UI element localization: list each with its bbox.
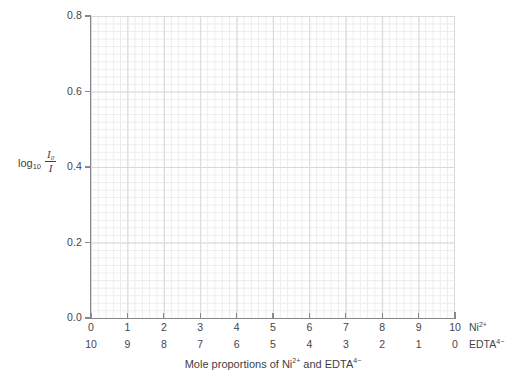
- x-tick-mark: [272, 313, 273, 319]
- x-tick-label-edta: 1: [399, 338, 439, 350]
- x-axis-title-joiner: and: [300, 358, 324, 370]
- x-tick-mark: [200, 313, 201, 319]
- y-axis-title-fraction: I0 I: [45, 149, 56, 174]
- row-label-ni-text: Ni: [469, 321, 479, 333]
- x-tick-label-edta: 4: [289, 338, 329, 350]
- x-tick-label-edta: 5: [253, 338, 293, 350]
- x-tick-mark: [236, 313, 237, 319]
- grid-right-edge: [454, 16, 455, 318]
- y-axis-title-log-base: 10: [33, 162, 41, 171]
- x-axis-end-stub: [454, 312, 455, 318]
- plot-area: [91, 16, 455, 318]
- x-tick-label-edta: 8: [144, 338, 184, 350]
- y-tick-mark: [85, 91, 91, 92]
- x-tick-label-ni: 4: [217, 321, 257, 333]
- x-axis-title-species-2: EDTA: [325, 358, 354, 370]
- y-tick-label-text: 0.8: [38, 9, 82, 21]
- x-tick-label-ni: 8: [362, 321, 402, 333]
- x-tick-label-edta: 7: [180, 338, 220, 350]
- y-tick-mark: [85, 15, 91, 16]
- grid-major: [91, 16, 455, 318]
- row-label-ni-charge: 2+: [479, 321, 487, 328]
- x-tick-label-ni: 9: [399, 321, 439, 333]
- x-tick-label-ni: 6: [289, 321, 329, 333]
- y-tick-mark: [85, 242, 91, 243]
- grid-top-edge: [91, 16, 455, 17]
- x-tick-label-edta: 9: [107, 338, 147, 350]
- y-tick-mark: [85, 166, 91, 167]
- x-tick-mark: [90, 313, 91, 319]
- x-axis-title-prefix: Mole proportions of: [185, 358, 282, 370]
- x-axis-row-label-edta: EDTA4−: [469, 338, 504, 350]
- x-axis-title-species-2-charge: 4−: [353, 357, 361, 364]
- x-tick-label-ni: 3: [180, 321, 220, 333]
- x-axis-row-label-ni: Ni2+: [469, 321, 487, 333]
- x-tick-label-ni: 7: [326, 321, 366, 333]
- x-tick-mark: [345, 313, 346, 319]
- x-tick-label-ni: 0: [71, 321, 111, 333]
- x-tick-mark: [127, 313, 128, 319]
- y-axis-title-log-text: log: [18, 157, 33, 169]
- x-tick-mark: [163, 313, 164, 319]
- y-tick-label-text: 0.6: [38, 85, 82, 97]
- y-axis-title-numerator: I0: [45, 149, 56, 161]
- x-tick-mark: [309, 313, 310, 319]
- x-tick-mark: [382, 313, 383, 319]
- y-axis-title-log: log10: [18, 157, 41, 169]
- y-axis-title-denominator: I: [47, 162, 55, 174]
- chart-figure: 0.80.60.40.20.0 010192837465564738291100…: [0, 0, 522, 383]
- x-tick-label-edta: 2: [362, 338, 402, 350]
- x-axis-title: Mole proportions of Ni2+ and EDTA4−: [91, 358, 455, 370]
- row-label-edta-charge: 4−: [496, 338, 504, 345]
- x-axis-title-species-1: Ni: [282, 358, 292, 370]
- y-axis-title: log10 I0 I: [18, 150, 56, 175]
- x-tick-label-edta: 3: [326, 338, 366, 350]
- x-tick-label-edta: 6: [217, 338, 257, 350]
- y-tick-label-text: 0.2: [38, 236, 82, 248]
- x-tick-label-ni: 1: [107, 321, 147, 333]
- row-label-edta-text: EDTA: [469, 338, 496, 350]
- x-tick-label-ni: 2: [144, 321, 184, 333]
- x-tick-label-edta: 10: [71, 338, 111, 350]
- x-tick-label-ni: 5: [253, 321, 293, 333]
- x-tick-mark: [418, 313, 419, 319]
